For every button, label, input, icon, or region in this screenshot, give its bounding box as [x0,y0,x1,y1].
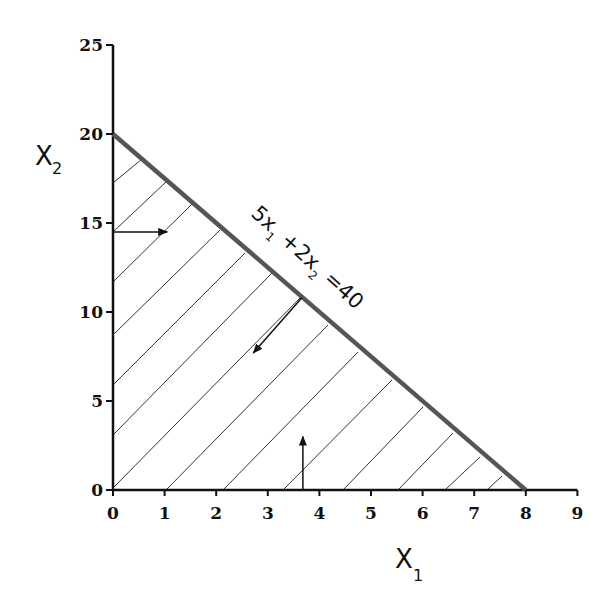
x-axis-label-subscript: 1 [413,566,423,585]
hatch-line [113,181,167,232]
x-tick-label: 1 [159,503,171,523]
y-tick-label: 5 [91,391,103,411]
x-tick-label: 6 [417,503,429,523]
hatch-line [283,380,392,490]
hatch-line [223,352,358,490]
arrow-icon [253,298,302,353]
x-axis-label-main: X [395,544,413,574]
hatch-line [113,203,193,282]
hatch-line [343,407,423,490]
x-tick-label: 8 [520,503,532,523]
hatch-line [113,159,142,183]
x-axis-label: X 1 [395,544,423,585]
x-tick-label: 3 [262,503,274,523]
x-tick-label: 9 [571,503,583,523]
y-tick-label: 0 [91,480,103,500]
y-axis-label-subscript: 2 [52,159,62,178]
axes [113,45,577,490]
y-tick-label: 25 [79,35,103,55]
hatch-line [113,230,220,335]
y-axis-label: X 2 [35,141,62,178]
y-tick-label: 20 [79,124,103,144]
y-axis-ticks: 0510152025 [79,35,113,500]
hatch-line [487,476,502,490]
x-tick-label: 7 [468,503,480,523]
hatch-line [398,433,453,490]
hatch-line [113,253,245,385]
y-axis-label-main: X [35,141,53,171]
hatch-line [445,457,480,490]
y-tick-label: 15 [79,213,103,233]
x-tick-label: 4 [313,503,325,523]
chart: 0123456789 0510152025 X 2 X 1 5x1 +2x2 =… [0,0,606,606]
x-tick-label: 5 [365,503,377,523]
x-tick-label: 2 [210,503,222,523]
hatch-line [113,273,272,435]
constraint-line-segment [113,134,526,490]
y-tick-label: 10 [79,302,103,322]
x-axis-ticks: 0123456789 [107,490,583,523]
constraint-line [113,134,526,490]
feasible-region-hatching [113,159,502,490]
x-tick-label: 0 [107,503,119,523]
hatch-line [113,298,300,488]
